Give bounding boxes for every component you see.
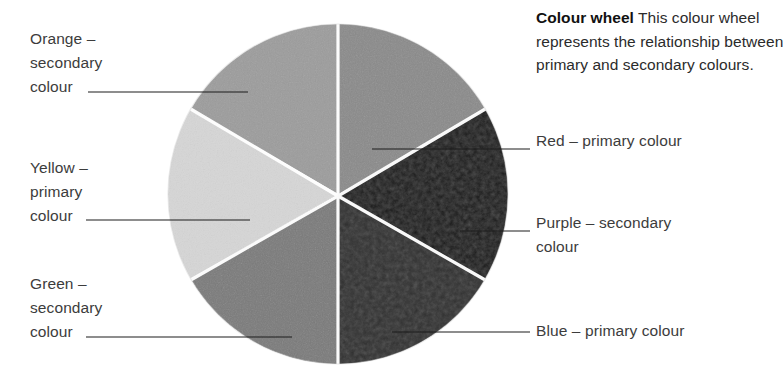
label-orange: Orange – secondary colour: [30, 27, 190, 99]
figure-caption: Colour wheel This colour wheel represent…: [536, 6, 784, 77]
label-purple: Purple – secondary colour: [536, 211, 746, 259]
label-red: Red – primary colour: [536, 129, 776, 153]
label-blue: Blue – primary colour: [536, 319, 776, 343]
caption-title: Colour wheel: [536, 9, 634, 26]
colour-wheel-figure: Orange – secondary colour Yellow – prima…: [0, 0, 784, 369]
label-yellow: Yellow – primary colour: [30, 156, 190, 228]
label-green: Green – secondary colour: [30, 272, 190, 344]
